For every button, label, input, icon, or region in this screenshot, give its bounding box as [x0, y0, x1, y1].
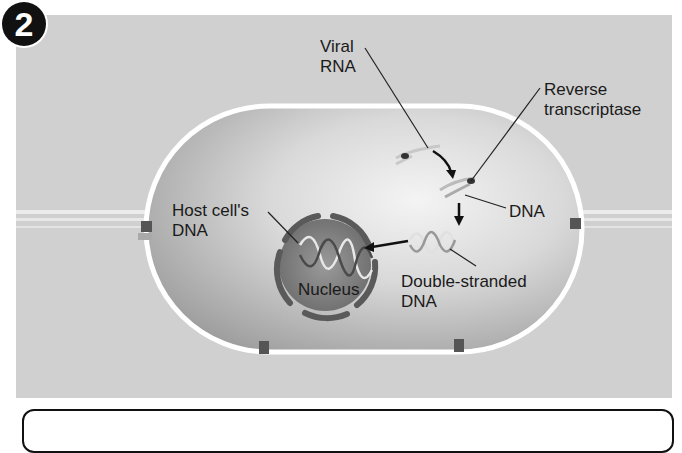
label-line: Host cell's [172, 201, 249, 221]
label-viral-rna: Viral RNA [320, 37, 356, 77]
label-line: DNA [401, 292, 527, 312]
caption-box [22, 409, 674, 453]
label-line: RNA [320, 57, 356, 77]
label-line: Double-stranded [401, 272, 527, 292]
step-number-badge: 2 [2, 2, 46, 46]
label-double-stranded-dna: Double-stranded DNA [401, 272, 527, 312]
label-reverse-transcriptase: Reverse transcriptase [544, 80, 641, 120]
label-line: transcriptase [544, 100, 641, 120]
label-line: Reverse [544, 80, 641, 100]
label-line: DNA [172, 221, 249, 241]
nucleus [277, 216, 375, 318]
label-host-cell-dna: Host cell's DNA [172, 201, 249, 241]
label-nucleus: Nucleus [298, 280, 359, 300]
label-line: Viral [320, 37, 356, 57]
label-dna: DNA [509, 202, 545, 222]
